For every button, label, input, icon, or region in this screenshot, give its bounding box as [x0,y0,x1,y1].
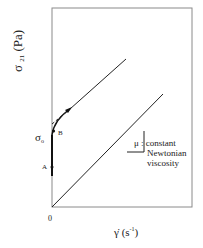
point-A-marker [51,166,54,169]
y-axis-symbol: σ [10,65,25,72]
y-axis-label: σ 21 (Pa) [10,30,26,72]
annotation-separator: : [141,138,144,148]
diagram-canvas [0,0,203,248]
point-B-marker [52,129,55,132]
x-axis-unit-suffix: ) [135,226,139,238]
origin-label: 0 [48,215,52,223]
plot-frame [52,8,192,207]
point-B-label: B [58,130,63,137]
annotation-text-viscosity: viscosity [134,158,187,168]
x-axis-symbol: γ̇ [114,226,119,238]
annotation-text-newtonian: Newtonian [134,148,187,158]
x-axis-label: γ̇ (s-1) [114,226,138,238]
annotation-line-1: μ : constant [134,138,187,148]
y-axis-unit: (Pa) [10,30,25,52]
bingham-line [70,59,126,109]
sigma0-label: σo [35,132,44,144]
annotation-text-constant: constant [146,138,176,148]
x-axis-unit-prefix: (s [122,226,130,238]
y-axis-subscript: 21 [18,55,26,62]
mu-symbol: μ [134,138,139,148]
sigma0-subscript: o [41,138,44,144]
point-A-label: A [42,164,47,171]
viscosity-annotation: μ : constant Newtonian viscosity [134,138,187,168]
